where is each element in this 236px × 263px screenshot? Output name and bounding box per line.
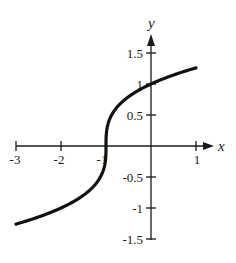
x-tick-label: 1 [194,152,201,167]
y-tick-label: -1 [132,201,143,216]
y-tick-label: 0.5 [127,108,143,123]
y-axis: 1.5 1 0.5 -0.5 -1 -1.5 y [122,15,156,247]
x-axis-arrow-icon [203,142,214,150]
function-plot: -3 -2 -1 1 x 1.5 1 0.5 -0.5 -1 -1.5 y [0,0,236,263]
x-tick-label: -3 [10,152,21,167]
x-axis: -3 -2 -1 1 x [10,138,225,167]
y-tick-label: 1.5 [127,46,143,61]
y-axis-label: y [146,15,155,31]
x-axis-label: x [217,138,225,154]
y-axis-arrow-icon [147,34,155,46]
y-tick-label: -0.5 [122,170,143,185]
x-tick-label: -2 [54,152,65,167]
y-tick-label: -1.5 [122,232,143,247]
